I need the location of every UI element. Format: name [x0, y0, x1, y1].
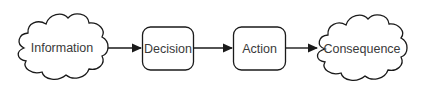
node-label-consequence: Consequence	[323, 42, 400, 56]
node-label-action: Action	[242, 42, 277, 56]
node-label-information: Information	[31, 41, 94, 55]
node-information: Information	[18, 14, 108, 79]
node-consequence: Consequence	[318, 15, 408, 80]
node-decision: Decision	[143, 27, 194, 70]
node-label-decision: Decision	[144, 42, 192, 56]
flow-diagram: Information Decision Action Consequence	[0, 0, 423, 90]
node-action: Action	[234, 27, 286, 70]
